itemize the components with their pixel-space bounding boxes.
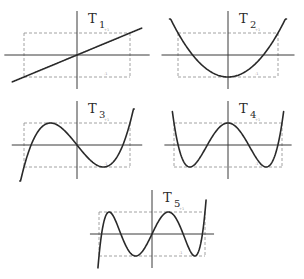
tick-plus-one: +1: [179, 207, 184, 211]
tick-plus-one: +1: [255, 118, 260, 122]
panel-t5: T5+1-1: [90, 190, 214, 268]
panel-label: T: [88, 101, 97, 116]
panel-t4: T4+1-1: [164, 101, 291, 179]
tick-minus-one: -1: [255, 72, 259, 76]
tick-minus-one: -1: [104, 162, 108, 166]
tick-plus-one: +1: [104, 28, 109, 32]
panel-label: T: [163, 190, 172, 205]
tick-plus-one: +1: [255, 28, 260, 32]
tick-plus-one: +1: [104, 118, 109, 122]
panel-t3: T3+1-1: [12, 101, 142, 181]
panel-t2: T2+1-1: [162, 11, 295, 89]
panel-label: T: [88, 11, 97, 26]
tick-minus-one: -1: [179, 251, 183, 255]
panel-label: T: [239, 11, 248, 26]
panel-label: T: [239, 101, 248, 116]
tick-minus-one: -1: [104, 72, 108, 76]
panel-t1: T1+1-1: [4, 11, 149, 89]
chebyshev-figure: T1+1-1T2+1-1T3+1-1T4+1-1T5+1-1: [0, 0, 304, 279]
tick-minus-one: -1: [255, 162, 259, 166]
